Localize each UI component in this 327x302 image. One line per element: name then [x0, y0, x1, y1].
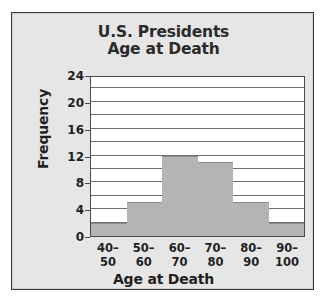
bar-90-100: [269, 223, 305, 236]
bar-slot: [269, 77, 305, 236]
y-tick-label: 24: [60, 70, 84, 82]
x-axis-label: Age at Death: [12, 271, 315, 287]
y-tick-label: 0: [60, 231, 84, 243]
bar-70-80: [198, 162, 234, 236]
x-tick-label-90-100: 90–100: [269, 241, 305, 269]
y-tick-label: 16: [60, 124, 84, 136]
x-tick-lower: 50–: [126, 241, 162, 255]
chart-figure: U.S. Presidents Age at Death Frequency 0…: [11, 12, 314, 290]
x-tick-label-60-70: 60–70: [162, 241, 198, 269]
chart-title: U.S. Presidents Age at Death: [12, 24, 315, 58]
chart-title-line-1: U.S. Presidents: [12, 24, 315, 41]
x-axis-tick-labels: 40–5050–6060–7070–8080–9090–100: [90, 241, 305, 269]
x-tick-label-80-90: 80–90: [233, 241, 269, 269]
bar-slot: [162, 77, 198, 236]
chart-title-line-2: Age at Death: [12, 41, 315, 58]
x-tick-lower: 70–: [197, 241, 233, 255]
x-tick-upper: 70: [162, 255, 198, 269]
plot-area: [90, 76, 305, 237]
bar-80-90: [233, 202, 269, 236]
bar-slot: [233, 77, 269, 236]
y-tick-label: 20: [60, 97, 84, 109]
x-tick-upper: 60: [126, 255, 162, 269]
y-tick-mark: [85, 237, 90, 238]
x-tick-upper: 80: [197, 255, 233, 269]
bar-slot: [127, 77, 163, 236]
bar-60-70: [162, 156, 198, 237]
x-tick-lower: 90–: [269, 241, 305, 255]
bar-slot: [91, 77, 127, 236]
x-tick-lower: 80–: [233, 241, 269, 255]
bar-series: [91, 77, 304, 236]
x-tick-lower: 60–: [162, 241, 198, 255]
x-tick-upper: 50: [90, 255, 126, 269]
x-tick-label-50-60: 50–60: [126, 241, 162, 269]
bar-50-60: [127, 202, 163, 236]
y-tick-label: 4: [60, 204, 84, 216]
y-axis-label: Frequency: [35, 69, 51, 189]
bar-slot: [198, 77, 234, 236]
bar-40-50: [91, 223, 127, 236]
x-tick-label-40-50: 40–50: [90, 241, 126, 269]
x-tick-label-70-80: 70–80: [197, 241, 233, 269]
x-tick-lower: 40–: [90, 241, 126, 255]
x-tick-upper: 100: [269, 255, 305, 269]
y-tick-label: 12: [60, 151, 84, 163]
y-axis-tick-labels: 04812162024: [60, 76, 84, 237]
y-tick-label: 8: [60, 177, 84, 189]
x-tick-upper: 90: [233, 255, 269, 269]
